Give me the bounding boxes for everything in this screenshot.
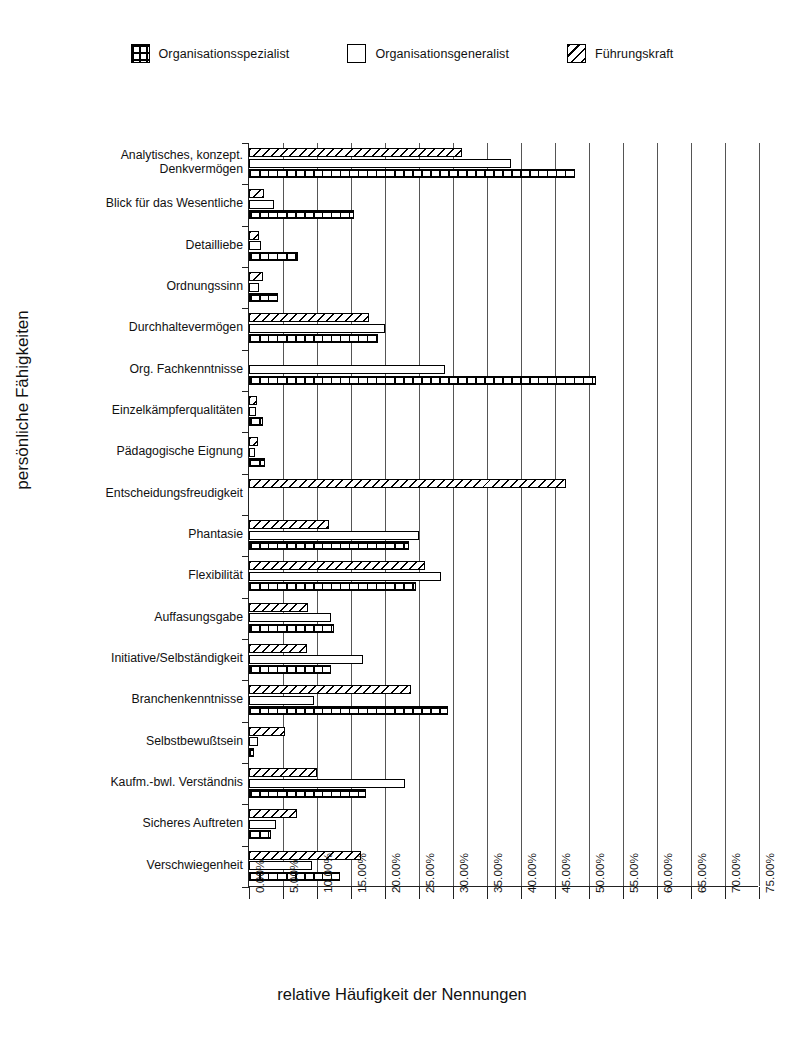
- y-axis-tick: [242, 226, 249, 227]
- bar-blank-16: [249, 820, 276, 829]
- x-axis-tick-label-3: 15.00%: [355, 853, 369, 893]
- y-axis-tick: [242, 598, 249, 599]
- bar-grid-0: [249, 169, 575, 178]
- bar-diag-3: [249, 272, 263, 281]
- bar-grid-6: [249, 417, 263, 426]
- legend-item-spezialist: Organisationsspezialist: [131, 44, 290, 63]
- y-axis-tick: [242, 515, 249, 516]
- grid-swatch-icon: [131, 44, 150, 63]
- y-axis-labels: Analytisches, konzept. DenkvermögenBlick…: [40, 143, 243, 887]
- bar-grid-16: [249, 830, 271, 839]
- x-axis-tick-label-9: 45.00%: [559, 853, 573, 893]
- y-axis-label-5: Org. Fachkenntnisse: [40, 363, 243, 377]
- bar-blank-11: [249, 613, 331, 622]
- bar-blank-14: [249, 737, 258, 746]
- gridline-45: [555, 143, 556, 886]
- bar-grid-2: [249, 252, 298, 261]
- bar-diag-6: [249, 396, 257, 405]
- x-axis-tick-label-1: 5.00%: [287, 860, 301, 893]
- bar-blank-7: [249, 448, 255, 457]
- y-axis-label-4: Durchhaltevermögen: [40, 321, 243, 335]
- bar-grid-14: [249, 748, 254, 757]
- gridline-15: [351, 143, 352, 886]
- y-axis-title: persönliche Fähigkeiten: [13, 170, 33, 630]
- bar-grid-3: [249, 293, 278, 302]
- bar-grid-4: [249, 334, 378, 343]
- x-axis-tick-label-11: 55.00%: [627, 853, 641, 893]
- bar-diag-1: [249, 189, 264, 198]
- gridline-75: [759, 143, 760, 886]
- x-axis-tick-label-5: 25.00%: [423, 853, 437, 893]
- y-axis-tick: [242, 267, 249, 268]
- y-axis-label-15: Kaufm.-bwl. Verständnis: [40, 776, 243, 790]
- x-axis-tick-label-6: 30.00%: [457, 853, 471, 893]
- bar-blank-10: [249, 572, 441, 581]
- y-axis-tick: [242, 308, 249, 309]
- bar-diag-4: [249, 313, 369, 322]
- bar-grid-1: [249, 210, 354, 219]
- plot-area: [248, 143, 758, 887]
- bar-blank-0: [249, 159, 511, 168]
- bar-grid-10: [249, 582, 416, 591]
- x-axis-tick-label-0: 0.00%: [253, 860, 267, 893]
- y-axis-label-7: Pädagogische Eignung: [40, 445, 243, 459]
- y-axis-tick: [242, 143, 249, 144]
- y-axis-label-2: Detailliebe: [40, 239, 243, 253]
- y-axis-tick: [242, 887, 249, 888]
- bar-blank-2: [249, 241, 261, 250]
- x-axis-tick-label-7: 35.00%: [491, 853, 505, 893]
- x-axis-tick-label-4: 20.00%: [389, 853, 403, 893]
- y-axis-tick: [242, 722, 249, 723]
- bar-diag-11: [249, 603, 308, 612]
- y-axis-tick: [242, 556, 249, 557]
- bar-grid-5: [249, 376, 596, 385]
- blank-swatch-icon: [347, 44, 366, 63]
- y-axis-label-17: Verschwiegenheit: [40, 859, 243, 873]
- y-axis-tick: [242, 184, 249, 185]
- legend-label-spezialist: Organisationsspezialist: [159, 47, 290, 61]
- bar-grid-9: [249, 541, 409, 550]
- bar-diag-14: [249, 727, 285, 736]
- bar-diag-12: [249, 644, 307, 653]
- y-axis-label-12: Initiative/Selbständigkeit: [40, 652, 243, 666]
- bar-diag-9: [249, 520, 329, 529]
- gridline-55: [623, 143, 624, 886]
- bar-diag-13: [249, 685, 411, 694]
- gridline-35: [487, 143, 488, 886]
- y-axis-label-6: Einzelkämpferqualitäten: [40, 404, 243, 418]
- gridline-40: [521, 143, 522, 886]
- bar-diag-15: [249, 768, 317, 777]
- y-axis-label-8: Entscheidungsfreudigkeit: [40, 487, 243, 501]
- bar-diag-8: [249, 479, 566, 488]
- x-axis-tick-label-10: 50.00%: [593, 853, 607, 893]
- y-axis-tick: [242, 391, 249, 392]
- bar-blank-4: [249, 324, 385, 333]
- bar-grid-11: [249, 624, 334, 633]
- bar-diag-17: [249, 851, 361, 860]
- y-axis-tick: [242, 639, 249, 640]
- y-axis-tick: [242, 474, 249, 475]
- y-axis-tick: [242, 763, 249, 764]
- legend-item-fuehrungskraft: Führungskraft: [567, 44, 673, 63]
- y-axis-label-13: Branchenkenntnisse: [40, 693, 243, 707]
- legend-item-generalist: Organisationsgeneralist: [347, 44, 509, 63]
- bar-blank-9: [249, 531, 419, 540]
- gridline-25: [419, 143, 420, 886]
- gridline-10: [317, 143, 318, 886]
- x-axis-tick-label-15: 75.00%: [763, 853, 777, 893]
- y-axis-label-14: Selbstbewußtsein: [40, 735, 243, 749]
- x-axis-tick-label-2: 10.00%: [321, 853, 335, 893]
- gridline-60: [657, 143, 658, 886]
- y-axis-tick: [242, 846, 249, 847]
- y-axis-label-10: Flexibilität: [40, 569, 243, 583]
- bar-blank-6: [249, 407, 256, 416]
- bar-blank-15: [249, 779, 405, 788]
- legend-label-generalist: Organisationsgeneralist: [375, 47, 509, 61]
- x-axis-tick-labels: 0.00%5.00%10.00%15.00%20.00%25.00%30.00%…: [0, 893, 804, 963]
- y-axis-label-11: Auffasungsgabe: [40, 611, 243, 625]
- x-axis-title: relative Häufigkeit der Nennungen: [0, 985, 804, 1004]
- y-axis-label-0: Analytisches, konzept. Denkvermögen: [40, 149, 243, 176]
- y-axis-tick: [242, 432, 249, 433]
- bar-blank-13: [249, 696, 314, 705]
- x-axis-tick-label-13: 65.00%: [695, 853, 709, 893]
